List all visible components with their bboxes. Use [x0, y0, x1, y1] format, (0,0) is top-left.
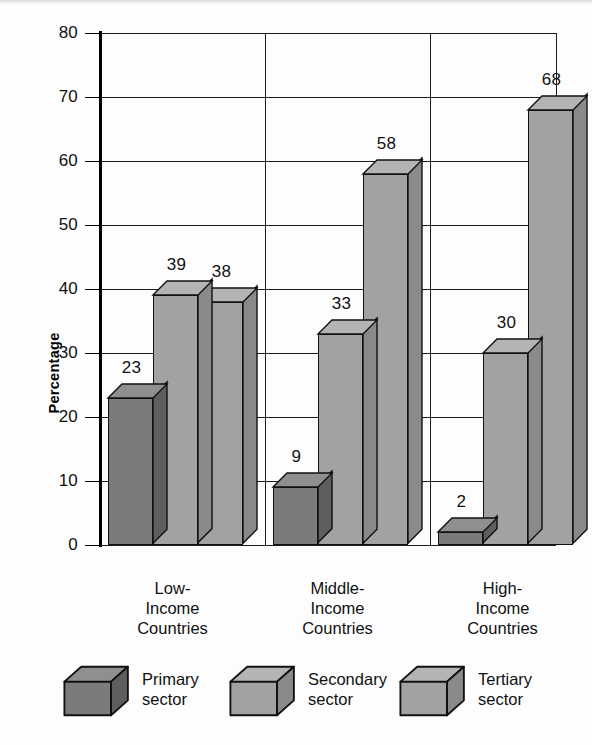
y-tick-mark-40 — [85, 289, 100, 290]
bar-side-face-0-1 — [198, 293, 214, 559]
grid-line-50 — [100, 225, 556, 226]
bar-top-face-2-0 — [438, 518, 499, 534]
group-separator-2 — [430, 33, 431, 545]
category-label-line: Income — [255, 598, 420, 618]
y-tick-label-10: 10 — [59, 471, 78, 491]
bar-front-face-2-1 — [483, 353, 528, 545]
bar-side-face-0-2 — [243, 300, 259, 559]
legend-cube-icon-0 — [62, 663, 134, 719]
bar-top-face-2-1 — [483, 339, 544, 355]
bar-value-label-2-1: 30 — [497, 313, 516, 333]
bar-side-face-2-2 — [573, 108, 589, 559]
category-label-line: Countries — [90, 618, 255, 638]
bar-value-label-2-0: 2 — [457, 492, 467, 512]
category-label-line: Countries — [420, 618, 585, 638]
bar-2-0 — [438, 532, 483, 545]
bar-front-face-1-0 — [273, 487, 318, 545]
y-tick-mark-20 — [85, 417, 100, 418]
bar-2-1 — [483, 353, 528, 545]
bar-value-label-0-0: 23 — [122, 358, 141, 378]
grid-line-80 — [100, 33, 556, 34]
bar-top-face-0-0 — [108, 384, 169, 400]
bar-side-face-1-2 — [408, 172, 424, 559]
bar-top-face-1-1 — [318, 320, 379, 336]
category-label-line: Income — [420, 598, 585, 618]
bar-top-face-1-0 — [273, 473, 334, 489]
legend-label-line: Secondary — [308, 669, 387, 689]
y-tick-label-50: 50 — [59, 215, 78, 235]
bar-chart-figure: Percentage 01020304050607080 23393893358… — [0, 0, 592, 745]
bar-value-label-1-0: 9 — [292, 447, 302, 467]
y-tick-label-80: 80 — [59, 23, 78, 43]
bar-top-face-2-2 — [528, 96, 589, 112]
y-tick-mark-50 — [85, 225, 100, 226]
scan-edge — [0, 0, 592, 5]
legend-label-line: sector — [142, 689, 199, 709]
grid-line-70 — [100, 97, 556, 98]
y-tick-label-70: 70 — [59, 87, 78, 107]
bar-side-face-2-0 — [483, 530, 499, 559]
bar-side-face-1-1 — [363, 332, 379, 559]
legend-label-0: Primarysector — [142, 669, 199, 709]
y-tick-mark-30 — [85, 353, 100, 354]
y-tick-label-40: 40 — [59, 279, 78, 299]
category-label-line: Countries — [255, 618, 420, 638]
bar-side-face-2-1 — [528, 351, 544, 559]
legend-cube-icon-2 — [398, 663, 470, 719]
bar-top-face-0-1 — [153, 281, 214, 297]
category-label-line: High- — [420, 578, 585, 598]
bar-side-face-0-0 — [153, 396, 169, 559]
group-separator-1 — [265, 33, 266, 545]
category-label-0: Low-IncomeCountries — [90, 578, 255, 638]
bar-side-face-1-0 — [318, 485, 334, 559]
bar-top-face-1-2 — [363, 160, 424, 176]
bar-value-label-0-2: 38 — [212, 262, 231, 282]
y-tick-label-60: 60 — [59, 151, 78, 171]
y-tick-mark-70 — [85, 97, 100, 98]
category-label-line: Low- — [90, 578, 255, 598]
grid-line-60 — [100, 161, 556, 162]
legend-label-2: Tertiarysector — [478, 669, 532, 709]
plot-area: 2339389335823068 — [100, 33, 556, 545]
legend-cube-icon-1 — [228, 663, 300, 719]
category-label-line: Income — [90, 598, 255, 618]
y-tick-mark-10 — [85, 481, 100, 482]
y-tick-label-0: 0 — [68, 535, 78, 555]
legend-label-line: Primary — [142, 669, 199, 689]
bar-value-label-2-2: 68 — [542, 70, 561, 90]
category-label-2: High-IncomeCountries — [420, 578, 585, 638]
legend-label-1: Secondarysector — [308, 669, 387, 709]
bar-front-face-0-0 — [108, 398, 153, 545]
bar-1-0 — [273, 487, 318, 545]
y-tick-mark-0 — [85, 545, 100, 546]
chart-legend: PrimarysectorSecondarysectorTertiarysect… — [0, 655, 592, 745]
y-tick-label-30: 30 — [59, 343, 78, 363]
bar-value-label-1-1: 33 — [332, 294, 351, 314]
y-tick-mark-80 — [85, 33, 100, 34]
y-tick-mark-60 — [85, 161, 100, 162]
legend-label-line: sector — [478, 689, 532, 709]
category-label-1: Middle-IncomeCountries — [255, 578, 420, 638]
legend-label-line: sector — [308, 689, 387, 709]
legend-label-line: Tertiary — [478, 669, 532, 689]
y-tick-label-20: 20 — [59, 407, 78, 427]
category-label-line: Middle- — [255, 578, 420, 598]
bar-value-label-0-1: 39 — [167, 255, 186, 275]
bar-value-label-1-2: 58 — [377, 134, 396, 154]
bar-0-0 — [108, 398, 153, 545]
